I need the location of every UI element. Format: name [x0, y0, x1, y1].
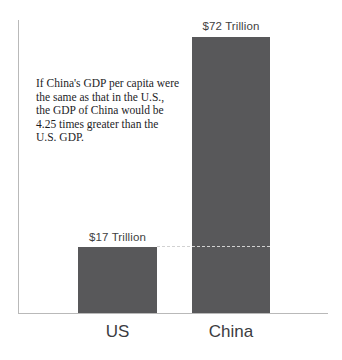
comparison-note-line-1: If China's GDP per capita were: [36, 77, 204, 91]
category-label-us: US: [78, 322, 157, 342]
value-label-us: $17 Trillion: [78, 231, 157, 243]
comparison-dashed-line: [157, 246, 270, 247]
value-label-china: $72 Trillion: [192, 20, 270, 32]
y-axis-line: [18, 20, 19, 314]
category-label-china: China: [192, 322, 270, 342]
comparison-note-line-4: 4.25 times greater than the: [36, 118, 204, 132]
x-axis-line: [18, 313, 328, 314]
bar-us[interactable]: [78, 247, 157, 313]
comparison-note-line-5: U.S. GDP.: [36, 131, 204, 145]
comparison-note: If China's GDP per capita were the same …: [36, 77, 204, 145]
comparison-note-line-3: the GDP of China would be: [36, 104, 204, 118]
gdp-comparison-bar-chart: $17 Trillion $72 Trillion US China If Ch…: [0, 0, 342, 360]
comparison-note-line-2: the same as that in the U.S.,: [36, 91, 204, 105]
